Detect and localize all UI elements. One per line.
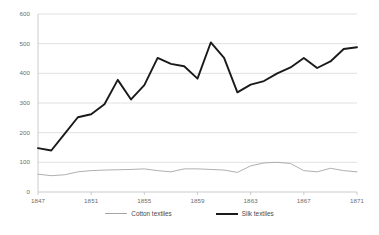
x-tick-label: 1859 [181,197,215,204]
x-tick-label: 1851 [74,197,108,204]
legend-swatch [216,213,238,215]
y-tick-label: 0 [4,188,30,195]
legend-label: Cotton textiles [131,210,172,217]
series-lines [38,42,357,175]
x-tick-label: 1871 [340,197,374,204]
y-tick-label: 500 [4,40,30,47]
gridlines [38,14,357,162]
y-tick-label: 300 [4,99,30,106]
legend-label: Silk textiles [242,210,274,217]
x-tick-label: 1847 [21,197,55,204]
x-tick-label: 1863 [234,197,268,204]
series-line-cotton-textiles [38,162,357,175]
series-line-silk-textiles [38,42,357,150]
y-tick-label: 600 [4,10,30,17]
x-tick-marks [38,192,357,195]
y-tick-label: 400 [4,69,30,76]
x-tick-label: 1855 [127,197,161,204]
legend-swatch [105,213,127,214]
line-chart: 6005004003002001000 18471851185518591863… [0,0,379,235]
x-tick-label: 1867 [287,197,321,204]
y-tick-label: 200 [4,129,30,136]
chart-legend: Cotton textilesSilk textiles [0,210,379,217]
legend-item[interactable]: Silk textiles [216,210,274,217]
y-tick-label: 100 [4,158,30,165]
legend-item[interactable]: Cotton textiles [105,210,172,217]
